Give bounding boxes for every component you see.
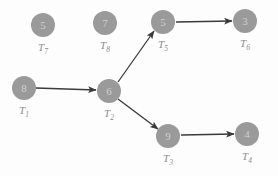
node-value-t8: 7 [102,18,108,29]
edge-t5-to-t6 [176,21,232,22]
node-t1[interactable]: 8 [12,76,36,100]
node-t6[interactable]: 3 [233,9,257,33]
node-value-t6: 3 [242,16,248,27]
node-value-t4: 4 [244,129,250,140]
node-label-t4: T4 [227,151,267,165]
node-t8[interactable]: 7 [93,11,117,35]
node-label-t6: T6 [225,38,265,52]
edges-group [36,21,234,135]
edge-t1-to-t2 [36,88,96,90]
node-t4[interactable]: 4 [235,122,259,146]
node-value-t2: 6 [106,86,112,97]
diagram-canvas: 5T77T85T53T68T16T29T34T4 [0,0,278,176]
node-t2[interactable]: 6 [97,79,121,103]
node-label-t2: T2 [89,108,129,122]
node-t3[interactable]: 9 [156,124,180,148]
node-label-t3: T3 [148,153,188,167]
node-value-t1: 8 [21,83,27,94]
node-t7[interactable]: 5 [31,13,55,37]
node-value-t3: 9 [165,131,171,142]
node-t5[interactable]: 5 [151,10,175,34]
node-label-t8: T8 [85,40,125,54]
node-value-t7: 5 [40,20,46,31]
edge-t3-to-t4 [181,134,234,135]
node-label-t5: T5 [143,39,183,53]
node-value-t5: 5 [160,17,166,28]
node-label-t7: T7 [23,42,63,56]
node-label-t1: T1 [4,105,44,119]
